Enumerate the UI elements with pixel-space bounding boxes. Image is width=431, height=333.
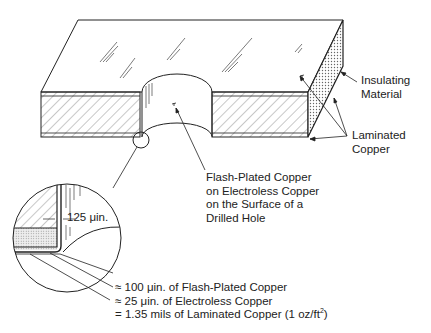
legend-prefix: =: [115, 308, 122, 320]
label-line: Material: [361, 88, 410, 102]
legend-text: 1.35 mils of Laminated Copper (1 oz/ft: [125, 308, 320, 320]
legend-prefix: ≈: [115, 281, 121, 293]
legend-text: 100 μin. of Flash-Plated Copper: [125, 281, 288, 293]
dimension-label: 125 μin.: [67, 211, 108, 225]
board-section-left: [41, 92, 140, 137]
legend-text: 25 μin. of Electroless Copper: [125, 295, 273, 307]
label-insulating-material: Insulating Material: [361, 74, 410, 101]
label-line: on the Surface of a: [206, 198, 319, 212]
label-line: Insulating: [361, 74, 410, 88]
label-line: Copper: [352, 143, 406, 157]
board-section-right: [212, 92, 308, 137]
label-laminated-copper: Laminated Copper: [352, 129, 406, 156]
board-top-surface: [41, 20, 343, 92]
legend-item: ≈ 100 μin. of Flash-Plated Copper: [115, 281, 328, 295]
legend-item: = 1.35 mils of Laminated Copper (1 oz/ft…: [115, 308, 328, 322]
magnify-marker: [133, 132, 149, 148]
legend-suffix: ): [324, 308, 328, 320]
legend: ≈ 100 μin. of Flash-Plated Copper ≈ 25 μ…: [115, 281, 328, 322]
label-line: Drilled Hole: [206, 212, 319, 226]
legend-item: ≈ 25 μin. of Electroless Copper: [115, 295, 328, 309]
label-hole-surface: Flash-Plated Copper on Electroless Coppe…: [206, 171, 319, 225]
label-line: Laminated: [352, 129, 406, 143]
label-line: Flash-Plated Copper: [206, 171, 319, 185]
legend-prefix: ≈: [115, 295, 121, 307]
magnified-detail: [0, 180, 130, 300]
label-line: on Electroless Copper: [206, 185, 319, 199]
